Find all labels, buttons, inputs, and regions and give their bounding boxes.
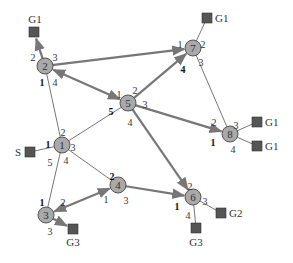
terminal-g1: G1 <box>28 13 41 37</box>
edges-layer <box>34 21 254 226</box>
terminal-square-icon <box>216 208 226 218</box>
edge-2-5 <box>53 70 120 100</box>
node-label: 3 <box>43 209 49 221</box>
terminal-square-icon <box>29 27 39 37</box>
terminal-label: G1 <box>265 116 278 128</box>
terminal-g1: G1 <box>252 116 278 128</box>
port-label-node-1: 2 <box>61 127 66 138</box>
terminal-square-icon <box>68 224 78 234</box>
node-2: 2 <box>37 58 53 74</box>
node-label: 2 <box>42 60 48 72</box>
node-3: 3 <box>38 207 54 223</box>
terminal-g2: G2 <box>216 207 242 219</box>
node-label: 8 <box>227 128 233 140</box>
port-label-node-6: 2 <box>188 181 193 192</box>
node-1: 1 <box>54 137 70 153</box>
port-label-node-2: 4 <box>53 77 58 88</box>
terminal-square-icon <box>252 141 262 151</box>
port-label-node-4: 2 <box>110 171 115 182</box>
port-label-node-8: 3 <box>234 120 239 131</box>
port-label-node-3: 2 <box>61 197 66 208</box>
terminal-label: G1 <box>265 140 278 152</box>
port-label-node-7: 2 <box>201 39 206 50</box>
port-label-node-8: 2 <box>212 117 217 128</box>
node-label: 5 <box>125 97 131 109</box>
terminal-g1: G1 <box>252 140 278 152</box>
port-label-node-7: 4 <box>181 64 186 75</box>
network-graph-canvas: G1G1G1G1SG3G2G3 12345678 231412341234512… <box>0 0 293 263</box>
port-label-node-7: 3 <box>199 57 204 68</box>
port-label-node-1: 3 <box>71 142 76 153</box>
port-label-node-6: 3 <box>203 196 208 207</box>
terminal-label: G1 <box>215 12 228 24</box>
terminal-label: G1 <box>28 13 41 25</box>
port-label-node-1: 5 <box>48 157 53 168</box>
terminal-label: G3 <box>66 236 80 248</box>
node-7: 7 <box>185 40 201 56</box>
port-label-node-4: 3 <box>124 195 129 206</box>
port-label-node-7: 1 <box>178 39 183 50</box>
port-label-node-4: 1 <box>104 194 109 205</box>
port-label-node-5: 3 <box>143 99 148 110</box>
nodes-layer: 12345678 <box>37 40 238 223</box>
edge-4-6 <box>123 186 184 196</box>
terminal-label: G3 <box>189 236 203 248</box>
node-label: 4 <box>115 179 121 191</box>
port-label-node-6: 1 <box>175 201 180 212</box>
port-label-node-3: 3 <box>48 226 53 237</box>
port-label-node-5: 2 <box>133 85 138 96</box>
terminal-s: S <box>15 146 35 158</box>
port-label-node-5: 1 <box>117 89 122 100</box>
port-label-node-2: 3 <box>53 52 58 63</box>
terminal-g3: G3 <box>66 224 80 248</box>
port-label-node-2: 2 <box>31 52 36 63</box>
port-label-node-8: 4 <box>231 144 236 155</box>
terminal-label: S <box>15 146 21 158</box>
port-label-node-2: 1 <box>40 77 45 88</box>
port-label-node-5: 4 <box>128 117 133 128</box>
terminal-label: G2 <box>229 207 242 219</box>
edge-1-5 <box>66 106 124 143</box>
port-label-node-5: 5 <box>109 106 114 117</box>
port-label-node-8: 1 <box>211 137 216 148</box>
port-label-node-1: 1 <box>46 139 51 150</box>
port-label-node-3: 1 <box>40 197 45 208</box>
node-label: 7 <box>190 42 196 54</box>
edge-2-7 <box>50 49 184 65</box>
terminal-square-icon <box>202 13 212 23</box>
terminal-g1: G1 <box>202 12 228 24</box>
port-label-node-1: 4 <box>64 155 69 166</box>
terminal-square-icon <box>191 223 201 233</box>
network-diagram: G1G1G1G1SG3G2G3 12345678 231412341234512… <box>0 0 293 263</box>
node-label: 1 <box>59 139 65 151</box>
terminal-square-icon <box>25 147 35 157</box>
port-label-node-6: 4 <box>186 210 191 221</box>
node-label: 6 <box>190 191 196 203</box>
edge-5-7 <box>132 54 186 100</box>
node-5: 5 <box>120 95 136 111</box>
terminal-square-icon <box>252 117 262 127</box>
terminal-g3: G3 <box>189 223 203 248</box>
